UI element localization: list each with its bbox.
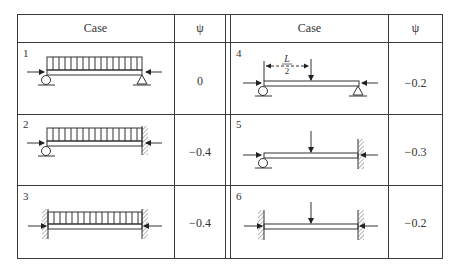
fixed-support-icon	[258, 210, 264, 240]
fixed-support-icon	[142, 209, 148, 239]
dimension-label-2: 2	[285, 66, 290, 76]
case-2-diagram	[27, 126, 162, 156]
dimension-label-L: L	[283, 53, 290, 64]
pin-support-icon	[349, 86, 367, 96]
roller-support-icon	[255, 159, 272, 169]
uniform-load-icon	[47, 57, 142, 70]
fixed-support-icon	[42, 209, 48, 239]
fixed-support-icon	[142, 126, 148, 155]
case-4-diagram	[243, 59, 378, 96]
uniform-load-icon	[48, 212, 142, 224]
case-6-diagram	[244, 202, 378, 240]
uniform-load-icon	[47, 128, 142, 141]
fixed-support-icon	[358, 210, 364, 240]
beam-diagrams: L 2	[0, 0, 458, 270]
roller-support-icon	[255, 87, 272, 97]
fixed-support-icon	[358, 139, 364, 169]
case-3-diagram	[28, 209, 162, 239]
case-5-diagram	[243, 131, 378, 169]
pin-support-icon	[133, 75, 151, 85]
roller-support-icon	[38, 147, 55, 157]
case-1-diagram	[27, 57, 162, 85]
roller-support-icon	[38, 76, 55, 86]
